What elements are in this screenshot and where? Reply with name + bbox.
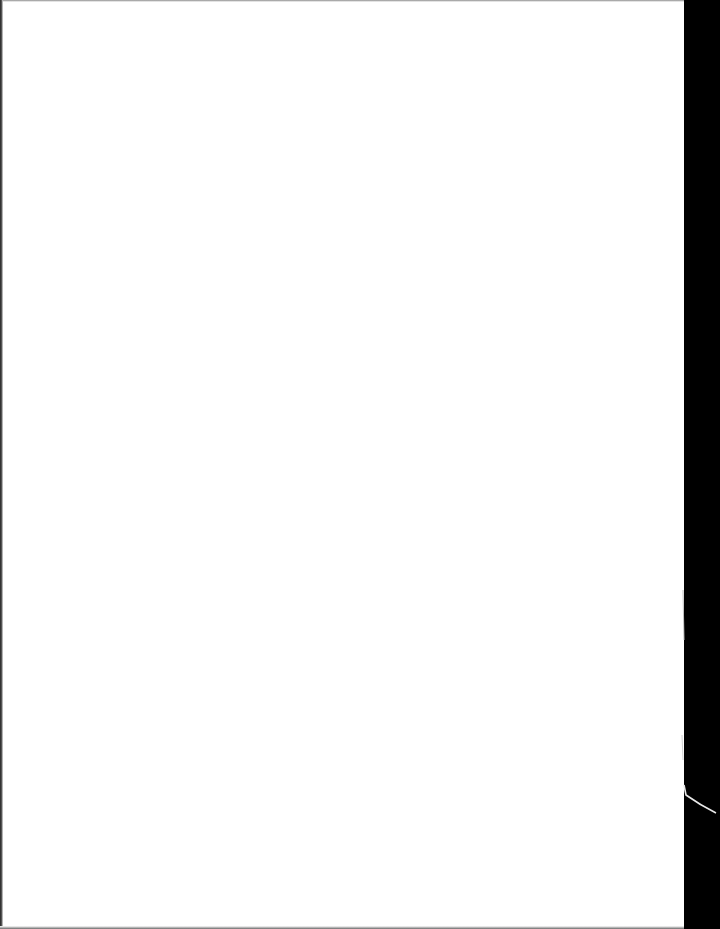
page-left-edge [0,0,3,929]
page-content [60,60,590,869]
page-top-edge [0,0,685,2]
blank-paper-page [0,0,685,929]
scanner-dark-margin [684,0,720,929]
scanned-page-canvas [0,0,720,929]
